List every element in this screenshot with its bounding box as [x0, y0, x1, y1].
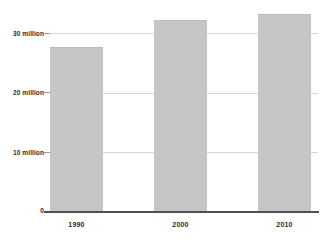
x-axis-label-2000: 2000 [154, 220, 207, 229]
bar-chart: 10 million 20 million 30 million 0 1990 … [0, 0, 330, 247]
y-axis-label-30m: 30 million [0, 30, 44, 38]
bar-2010 [258, 14, 311, 212]
bar-2000 [154, 20, 207, 212]
y-axis-label-30m-text: 30 million [13, 30, 44, 38]
x-axis-baseline [44, 211, 319, 213]
bar-1990 [50, 47, 103, 212]
plot-area [50, 8, 318, 212]
y-axis-label-10m: 10 million [0, 149, 44, 157]
y-axis-label-20m-text: 20 million [13, 89, 44, 97]
y-axis-label-20m: 20 million [0, 89, 44, 97]
y-axis-label-10m-text: 10 million [13, 149, 44, 157]
x-axis-label-1990: 1990 [50, 220, 103, 229]
y-axis-label-zero: 0 [0, 207, 44, 215]
x-axis-label-2010: 2010 [258, 220, 311, 229]
